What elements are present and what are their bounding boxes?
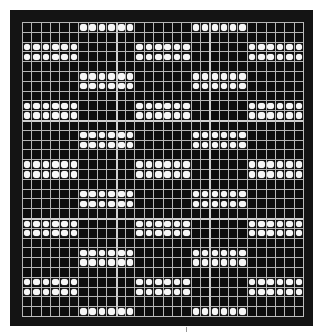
grid-cell: [106, 267, 115, 277]
grid-cell: [125, 247, 134, 257]
grid-cell: [181, 91, 190, 101]
grid-cell: [266, 189, 275, 199]
grid-cell: [41, 91, 50, 101]
grid-cell: [50, 218, 59, 228]
grid-cell: [78, 218, 87, 228]
grid-cell: [209, 296, 218, 306]
grid-cell: [31, 296, 40, 306]
grid-cell: [125, 140, 134, 150]
grid-cell: [294, 61, 303, 71]
white-dot: [118, 250, 125, 257]
white-dot: [89, 83, 96, 90]
white-dot: [286, 171, 293, 178]
grid-cell: [247, 100, 256, 110]
grid-cell: [181, 208, 190, 218]
grid-cell: [275, 130, 284, 140]
grid-cell: [125, 81, 134, 91]
white-dot: [61, 221, 68, 228]
grid-cell: [134, 208, 143, 218]
grid-cell: [247, 306, 256, 316]
grid-cell: [275, 120, 284, 130]
grid-cell: [41, 51, 50, 61]
grid-cell: [134, 22, 143, 32]
white-dot: [277, 289, 284, 296]
white-dot: [286, 44, 293, 51]
grid-cell: [247, 42, 256, 52]
grid-cell: [88, 179, 97, 189]
white-dot: [174, 279, 181, 286]
grid-cell: [134, 32, 143, 42]
white-dot: [99, 83, 106, 90]
grid-cell: [69, 32, 78, 42]
white-dot: [202, 24, 209, 31]
grid-cell: [163, 100, 172, 110]
white-dot: [24, 230, 31, 237]
grid-cell: [247, 159, 256, 169]
grid-cell: [191, 120, 200, 130]
grid-cell: [219, 238, 228, 248]
grid-cell: [163, 277, 172, 287]
grid-cell: [97, 140, 106, 150]
grid-cell: [69, 287, 78, 297]
white-dot: [71, 279, 78, 286]
grid-cell: [247, 179, 256, 189]
grid-cell: [172, 179, 181, 189]
grid-cell: [191, 169, 200, 179]
grid-cell: [31, 257, 40, 267]
white-dot: [212, 132, 219, 139]
grid-cell: [78, 100, 87, 110]
white-dot: [43, 171, 50, 178]
grid-cell: [172, 51, 181, 61]
grid-cell: [134, 228, 143, 238]
grid-cell: [219, 42, 228, 52]
grid-cell: [247, 110, 256, 120]
grid-cell: [275, 218, 284, 228]
white-dot: [202, 201, 209, 208]
grid-cell: [97, 100, 106, 110]
grid-cell: [181, 218, 190, 228]
grid-cell: [116, 267, 125, 277]
grid-cell: [50, 71, 59, 81]
white-dot: [155, 44, 162, 51]
grid-cell: [59, 149, 68, 159]
white-dot: [296, 54, 303, 61]
white-dot: [183, 103, 190, 110]
white-dot: [127, 308, 134, 315]
grid-cell: [237, 51, 246, 61]
white-dot: [286, 279, 293, 286]
grid-cell: [237, 100, 246, 110]
grid-cell: [106, 61, 115, 71]
grid-cell: [228, 277, 237, 287]
grid-cell: [275, 149, 284, 159]
grid-cell: [181, 51, 190, 61]
grid-cell: [22, 120, 31, 130]
grid-cell: [31, 159, 40, 169]
white-dot: [52, 230, 59, 237]
grid-cell: [228, 71, 237, 81]
grid-cell: [209, 287, 218, 297]
grid-cell: [153, 71, 162, 81]
grid-cell: [266, 120, 275, 130]
grid-cell: [59, 42, 68, 52]
white-dot: [127, 83, 134, 90]
white-dot: [249, 289, 256, 296]
grid-cell: [237, 32, 246, 42]
grid-cell: [266, 61, 275, 71]
grid-cell: [266, 277, 275, 287]
white-dot: [277, 279, 284, 286]
grid-cell: [163, 169, 172, 179]
grid-cell: [144, 91, 153, 101]
white-dot: [71, 54, 78, 61]
white-dot: [239, 24, 246, 31]
grid-cell: [153, 208, 162, 218]
grid-cell: [219, 120, 228, 130]
white-dot: [249, 230, 256, 237]
grid-cell: [284, 179, 293, 189]
grid-cell: [284, 306, 293, 316]
grid-cell: [219, 51, 228, 61]
grid-cell: [125, 208, 134, 218]
grid-cell: [256, 228, 265, 238]
grid-cell: [247, 91, 256, 101]
grid-cell: [78, 130, 87, 140]
white-dot: [52, 289, 59, 296]
